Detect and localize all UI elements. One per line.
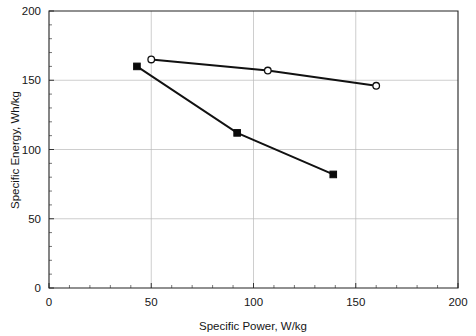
data-point-filled-square: [330, 171, 337, 178]
data-point-filled-square: [134, 63, 141, 70]
data-point-open-circle: [373, 82, 380, 89]
y-axis-title: Specific Energy, Wh/kg: [9, 91, 21, 209]
x-tick-label: 150: [346, 296, 365, 308]
x-tick-label: 100: [244, 296, 263, 308]
x-axis-title: Specific Power, W/kg: [199, 320, 307, 332]
y-tick-label: 200: [22, 5, 41, 17]
y-tick-label: 150: [22, 74, 41, 86]
y-tick-label: 50: [28, 213, 41, 225]
data-point-open-circle: [148, 56, 155, 63]
y-tick-label: 100: [22, 144, 41, 156]
chart-container: 050100150200 050100150200 Specific Power…: [0, 0, 476, 336]
data-point-open-circle: [265, 67, 272, 74]
y-tick-label: 0: [35, 282, 41, 294]
x-tick-label: 50: [145, 296, 158, 308]
x-tick-label: 200: [448, 296, 467, 308]
data-point-filled-square: [234, 130, 241, 137]
scatter-line-chart: 050100150200 050100150200 Specific Power…: [0, 0, 476, 336]
chart-background: [0, 0, 476, 336]
x-tick-label: 0: [46, 296, 52, 308]
